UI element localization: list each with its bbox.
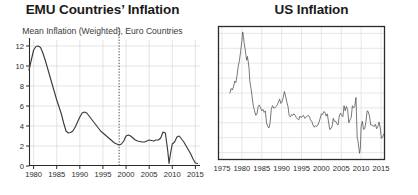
panel-subtitle-emu: Mean Inflation (Weighted), Euro Countrie… xyxy=(0,26,205,36)
x-tick-label: 1995 xyxy=(293,164,310,173)
panel-title-emu: EMU Countries’ Inflation xyxy=(0,2,205,17)
x-tick-label: 1975 xyxy=(214,164,231,173)
x-tick-label: 2015 xyxy=(373,164,390,173)
y-tick-label: 0 xyxy=(8,162,24,171)
axis-lines-emu xyxy=(29,38,200,166)
plot-area-us xyxy=(218,26,385,160)
y-tick-label: 2 xyxy=(8,142,24,151)
x-tick-label: 2005 xyxy=(333,164,350,173)
x-tick-label: 1980 xyxy=(233,164,250,173)
x-tick-label: 2005 xyxy=(141,170,158,179)
x-tick-label: 2015 xyxy=(187,170,204,179)
y-tick-label: 6 xyxy=(8,102,24,111)
plot-area-emu xyxy=(29,40,200,166)
y-tick-label: 12 xyxy=(8,42,24,51)
panel-us-inflation: US Inflation 197519801985199019952000200… xyxy=(205,0,418,195)
x-tick-label: 2010 xyxy=(164,170,181,179)
gridlines-emu xyxy=(29,40,200,166)
x-tick-label: 2010 xyxy=(353,164,370,173)
series-line-us xyxy=(230,32,384,153)
x-tick-label: 2000 xyxy=(313,164,330,173)
x-tick-label: 2000 xyxy=(118,170,135,179)
plot-svg-emu xyxy=(29,40,200,166)
y-tick-label: 8 xyxy=(8,82,24,91)
x-tick-label: 1995 xyxy=(94,170,111,179)
y-tick-label: 10 xyxy=(8,62,24,71)
x-tick-label: 1985 xyxy=(253,164,270,173)
inflation-figure: EMU Countries’ Inflation Mean Inflation … xyxy=(0,0,418,195)
x-tick-label: 1980 xyxy=(25,170,42,179)
gridlines-us xyxy=(219,27,384,159)
panel-title-us: US Inflation xyxy=(205,2,418,17)
y-tick-label: 4 xyxy=(8,122,24,131)
x-tick-label: 1985 xyxy=(48,170,65,179)
plot-svg-us xyxy=(218,26,385,160)
x-tick-label: 1990 xyxy=(273,164,290,173)
tick-marks-emu xyxy=(26,46,195,169)
panel-emu-inflation: EMU Countries’ Inflation Mean Inflation … xyxy=(0,0,205,195)
x-tick-label: 1990 xyxy=(71,170,88,179)
